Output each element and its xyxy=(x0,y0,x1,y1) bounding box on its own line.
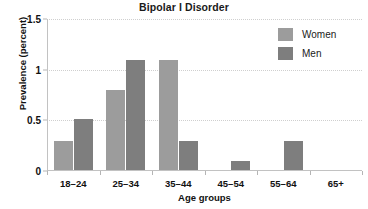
bar-women-2 xyxy=(159,60,178,171)
y-tick-label: 1.5 xyxy=(27,14,41,25)
bar-men-0 xyxy=(74,119,93,171)
x-tick-mark xyxy=(362,171,363,175)
legend-swatch-men xyxy=(278,47,293,60)
gridline xyxy=(47,19,362,20)
gridline xyxy=(47,70,362,71)
y-tick-label: 0 xyxy=(35,166,41,177)
y-axis-line xyxy=(47,19,48,171)
y-tick-label: 1 xyxy=(35,64,41,75)
x-tick-label: 45–54 xyxy=(218,178,244,189)
x-tick-label: 25–34 xyxy=(113,178,139,189)
x-tick-label: 55–64 xyxy=(270,178,296,189)
x-tick-mark xyxy=(152,171,153,175)
x-tick-mark xyxy=(47,171,48,175)
bar-men-1 xyxy=(126,60,145,171)
gridline xyxy=(47,120,362,121)
y-tick-label: 0.5 xyxy=(27,115,41,126)
bar-women-1 xyxy=(106,90,125,171)
x-axis-label: Age groups xyxy=(47,192,362,203)
x-tick-label: 35–44 xyxy=(165,178,191,189)
legend-label-men: Men xyxy=(302,48,321,59)
legend-item-women: Women xyxy=(278,26,336,42)
x-tick-label: 18–24 xyxy=(60,178,86,189)
x-tick-label: 65+ xyxy=(328,178,344,189)
bar-men-2 xyxy=(179,141,198,171)
chart-title: Bipolar I Disorder xyxy=(0,1,368,13)
x-tick-mark xyxy=(257,171,258,175)
bar-women-0 xyxy=(54,141,73,171)
chart-container: Bipolar I Disorder Prevalence (percent) … xyxy=(0,0,368,209)
x-tick-mark xyxy=(310,171,311,175)
legend-swatch-women xyxy=(278,28,293,41)
bar-men-4 xyxy=(284,141,303,171)
legend-item-men: Men xyxy=(278,45,336,61)
x-tick-mark xyxy=(205,171,206,175)
x-tick-mark xyxy=(100,171,101,175)
y-axis-label: Prevalence (percent) xyxy=(17,0,28,129)
legend-label-women: Women xyxy=(302,29,336,40)
chart-legend: WomenMen xyxy=(278,26,336,64)
